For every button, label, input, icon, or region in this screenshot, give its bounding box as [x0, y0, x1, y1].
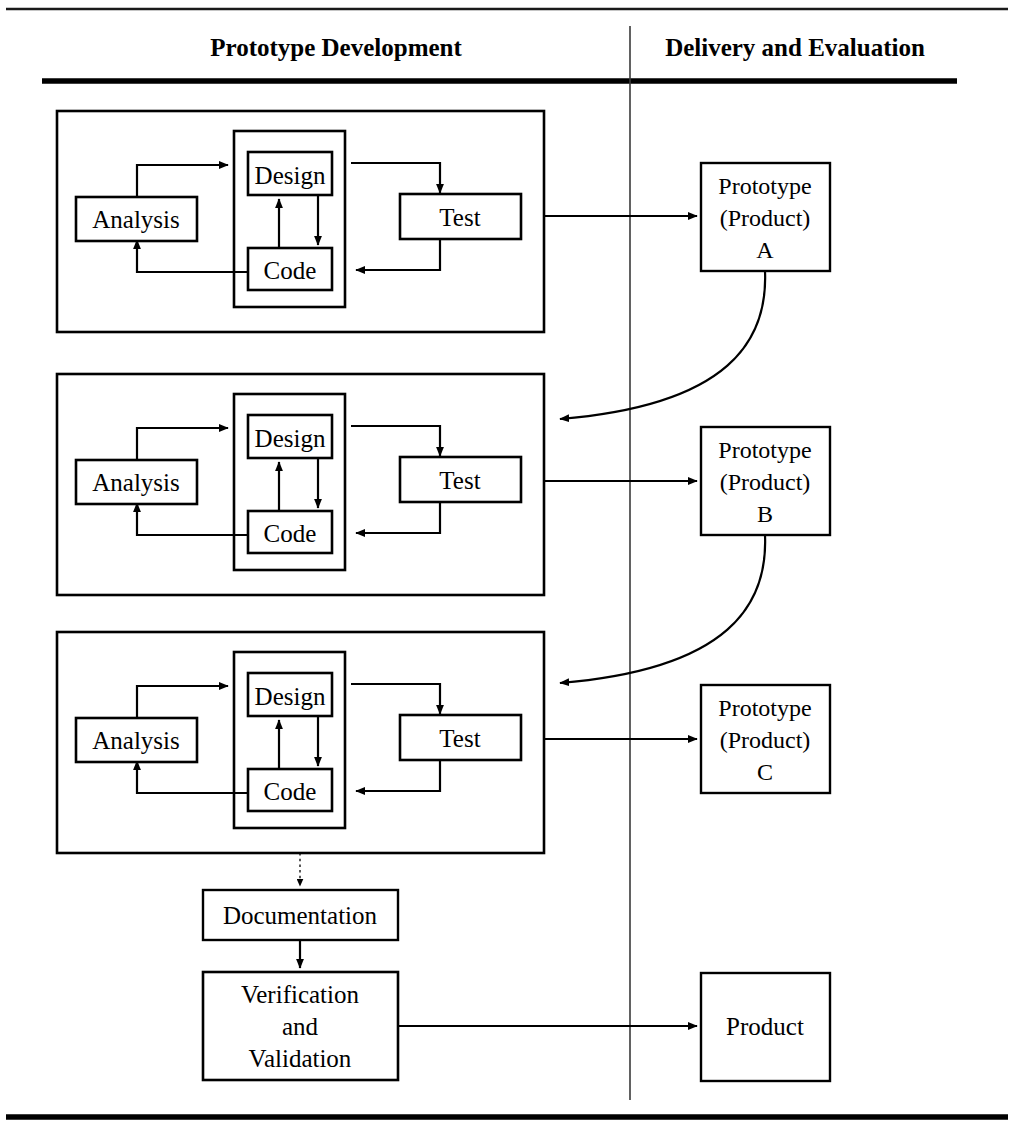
iteration-3-design-label: Design: [255, 683, 326, 710]
iteration-1-design-label: Design: [255, 162, 326, 189]
prototype-b-feedback-curve: [560, 535, 765, 683]
verification-line3: Validation: [249, 1045, 352, 1072]
prototype-a-line1: Prototype: [718, 173, 811, 199]
iteration-2-analysis-label: Analysis: [92, 469, 180, 496]
prototype-b-line1: Prototype: [718, 437, 811, 463]
iteration-1-test-label: Test: [439, 204, 480, 231]
documentation-label: Documentation: [223, 902, 378, 929]
header-delivery-evaluation: Delivery and Evaluation: [665, 34, 925, 61]
prototype-b-group: Prototype (Product) B: [701, 427, 830, 535]
iteration-3-test-label: Test: [439, 725, 480, 752]
prototype-b-line2: (Product): [720, 469, 811, 495]
iteration-1-group: Analysis Design Code Test: [57, 111, 697, 332]
prototype-a-feedback-curve: [560, 271, 765, 419]
iteration-3-code-label: Code: [264, 778, 317, 805]
verification-line1: Verification: [241, 981, 360, 1008]
prototype-development-diagram: Prototype Development Delivery and Evalu…: [0, 0, 1014, 1135]
iteration-1-analysis-label: Analysis: [92, 206, 180, 233]
prototype-a-line3: A: [756, 237, 774, 263]
iteration-3-analysis-label: Analysis: [92, 727, 180, 754]
product-label: Product: [726, 1013, 804, 1040]
iteration-2-code-label: Code: [264, 520, 317, 547]
prototype-b-line3: B: [757, 501, 773, 527]
prototype-a-line2: (Product): [720, 205, 811, 231]
header-prototype-development: Prototype Development: [210, 34, 462, 61]
iteration-3-group: Analysis Design Code Test: [57, 632, 697, 853]
iteration-2-group: Analysis Design Code Test: [57, 374, 697, 595]
iteration-2-test-label: Test: [439, 467, 480, 494]
prototype-c-line2: (Product): [720, 727, 811, 753]
prototype-a-group: Prototype (Product) A: [701, 163, 830, 271]
prototype-c-group: Prototype (Product) C: [701, 685, 830, 793]
iteration-1-code-label: Code: [264, 257, 317, 284]
iteration-2-design-label: Design: [255, 425, 326, 452]
verification-line2: and: [282, 1013, 319, 1040]
prototype-c-line1: Prototype: [718, 695, 811, 721]
prototype-c-line3: C: [757, 759, 773, 785]
